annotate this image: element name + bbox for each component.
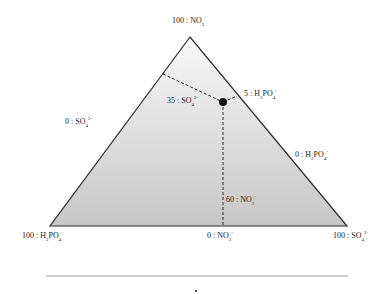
- edge-label-bottom: 0 : NO3-: [207, 231, 233, 241]
- composition-point: [219, 98, 227, 106]
- ternary-diagram: [0, 0, 388, 294]
- point-label-no3: 60 : NO3-: [226, 195, 256, 205]
- vertex-label-bottom-left: 100 : H2PO4-: [22, 231, 63, 241]
- point-label-h2po4: 5 : H2PO4-: [244, 89, 277, 99]
- ternary-triangle: [50, 37, 347, 226]
- edge-label-right: 0 : H2PO4-: [295, 150, 328, 160]
- vertex-label-top: 100 : NO3-: [172, 16, 206, 26]
- page-mark: [195, 290, 197, 292]
- vertex-label-bottom-right: 100 : SO42-: [333, 231, 368, 241]
- edge-label-left: 0 : SO42-: [65, 117, 92, 127]
- point-label-so4: 35 : SO42-: [167, 96, 198, 106]
